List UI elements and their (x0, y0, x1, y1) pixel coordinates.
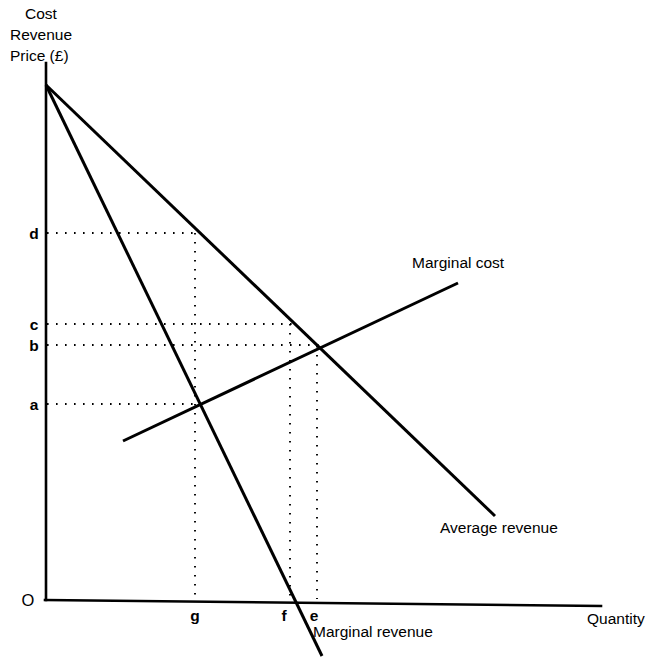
x-tick-label-g: g (190, 607, 199, 624)
marginal-cost-curve (123, 283, 458, 441)
cost-revenue-price-diagram: Cost Revenue Price (£) Quantity O d c b … (0, 0, 662, 666)
y-axis-title-line-3: Price (£) (10, 47, 69, 64)
marginal-cost-label: Marginal cost (412, 254, 505, 271)
x-tick-label-f: f (281, 607, 287, 624)
origin-label: O (22, 591, 35, 609)
average-revenue-label: Average revenue (440, 519, 558, 536)
y-axis-title-line-2: Revenue (10, 26, 72, 43)
y-tick-label-b: b (29, 337, 38, 354)
marginal-revenue-curve (46, 85, 322, 656)
average-revenue-curve (46, 85, 495, 516)
y-tick-label-c: c (30, 316, 39, 333)
y-tick-label-d: d (29, 225, 38, 242)
marginal-revenue-label: Marginal revenue (313, 623, 433, 640)
diagram-canvas: Cost Revenue Price (£) Quantity O d c b … (0, 0, 662, 666)
y-axis-title-line-1: Cost (25, 5, 58, 22)
x-axis (45, 600, 601, 606)
x-axis-title: Quantity (587, 610, 645, 627)
y-tick-label-a: a (30, 396, 39, 413)
x-tick-label-e: e (310, 607, 319, 624)
